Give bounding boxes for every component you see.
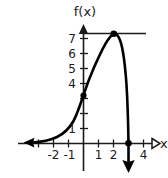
x-axis-label: x [160, 136, 168, 151]
y-tick-label-6: 6 [68, 47, 76, 61]
y-tick-label-4: 4 [68, 77, 76, 91]
point-maximum [111, 31, 118, 38]
drop-arrow-group [122, 143, 134, 173]
marked-points-group [80, 31, 131, 147]
function-graph-figure: f(x) x 7 6 5 4 1 -2 -1 1 2 4 [0, 0, 168, 178]
y-tick-label-7: 7 [68, 32, 76, 46]
x-tick-label-4: 4 [140, 148, 148, 162]
left-asymptote-arrow-icon [24, 138, 35, 148]
point-on-y-axis [80, 92, 86, 98]
x-tick-label--2: -2 [48, 148, 60, 162]
y-axis-arrowhead [79, 24, 88, 34]
point-x-intercept [125, 140, 132, 147]
x-axis-arrowhead [152, 139, 160, 149]
y-tick-label-5: 5 [68, 62, 76, 76]
function-curve [32, 34, 129, 143]
x-tick-label--1: -1 [64, 148, 76, 162]
x-tick-label-2: 2 [110, 148, 118, 162]
y-tick-label-1: 1 [68, 122, 76, 136]
y-axis-label: f(x) [74, 4, 96, 19]
x-tick-label-1: 1 [95, 148, 103, 162]
plot-canvas: f(x) x 7 6 5 4 1 -2 -1 1 2 4 [0, 0, 168, 178]
